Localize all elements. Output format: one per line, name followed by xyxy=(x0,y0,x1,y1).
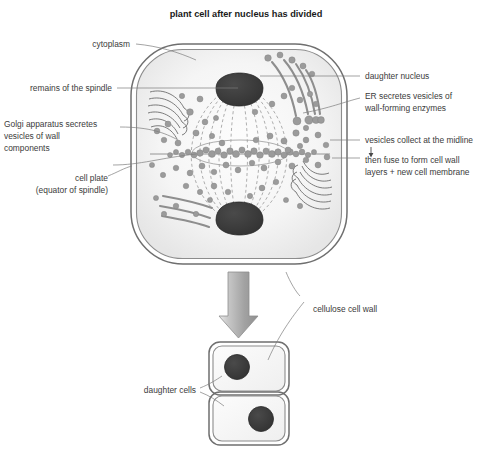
label-daughter-cells: daughter cells xyxy=(144,385,196,395)
label-remains-of-spindle: remains of the spindle xyxy=(30,83,112,93)
label-fuse-line2: layers + new cell membrane xyxy=(365,167,470,177)
page-title: plant cell after nucleus has divided xyxy=(170,9,323,19)
daughter-cell-top-nucleus xyxy=(225,355,250,380)
daughter-cell-bottom-nucleus xyxy=(249,407,274,432)
label-er-line2: wall-forming enzymes xyxy=(364,103,446,113)
daughter-cells-group xyxy=(209,342,289,445)
down-arrow-icon xyxy=(219,272,258,338)
label-cell-plate-line1: cell plate xyxy=(75,173,108,183)
label-daughter-nucleus: daughter nucleus xyxy=(365,71,429,81)
label-vesicles-midline-group: vesicles collect at the midline xyxy=(330,135,473,145)
label-cytoplasm: cytoplasm xyxy=(92,39,130,49)
label-golgi-line1: Golgi apparatus secretes xyxy=(4,119,97,129)
daughter-nucleus-bottom xyxy=(216,202,263,235)
label-fuse-line1: then fuse to form cell wall xyxy=(365,155,460,165)
label-golgi-line2: vesicles of wall xyxy=(4,131,60,141)
label-golgi-line3: components xyxy=(4,143,50,153)
main-cell xyxy=(131,44,347,264)
daughter-nucleus-top xyxy=(216,73,263,106)
label-cellulose-cell-wall-group: cellulose cell wall xyxy=(268,272,377,360)
label-fuse-group: then fuse to form cell wall layers + new… xyxy=(332,155,470,177)
label-er-line1: ER secretes vesicles of xyxy=(365,91,453,101)
label-cellulose-cell-wall: cellulose cell wall xyxy=(313,304,377,314)
diagram-root: plant cell after nucleus has divided xyxy=(0,0,492,451)
label-vesicles-midline: vesicles collect at the midline xyxy=(365,135,473,145)
daughter-cell-top xyxy=(209,342,289,395)
label-cell-plate-line2: (equator of spindle) xyxy=(36,185,108,195)
daughter-cell-bottom xyxy=(209,392,289,445)
